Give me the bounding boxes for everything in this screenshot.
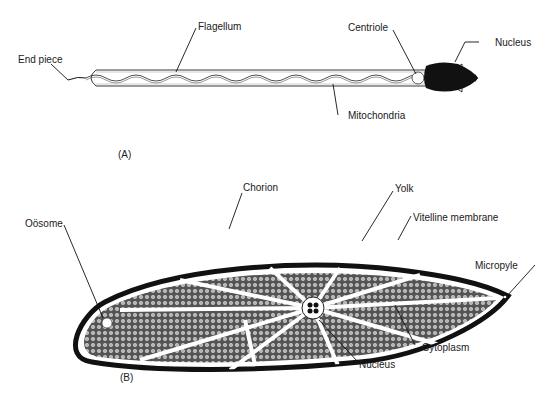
sperm-nucleus-shape xyxy=(424,62,478,91)
label-end-piece: End piece xyxy=(18,54,62,65)
label-cytoplasm: Cytoplasm xyxy=(422,342,469,353)
label-centriole: Centriole xyxy=(348,22,388,33)
label-vitelline-membrane: Vitelline membrane xyxy=(413,212,498,223)
label-mitochondria: Mitochondria xyxy=(348,110,405,121)
panel-a-leaders xyxy=(51,28,479,115)
centriole-shape xyxy=(412,72,424,84)
label-chorion: Chorion xyxy=(243,182,278,193)
label-micropyle: Micropyle xyxy=(475,260,518,271)
panel-a-label: (A) xyxy=(118,149,131,160)
egg-nucleus-shape xyxy=(302,297,324,319)
oosome-shape xyxy=(102,318,112,328)
label-yolk: Yolk xyxy=(395,183,414,194)
egg-diagram xyxy=(75,265,508,370)
label-sperm-nucleus: Nucleus xyxy=(495,37,531,48)
diagram-canvas xyxy=(0,0,550,400)
sperm-diagram xyxy=(68,62,478,92)
panel-b-label: (B) xyxy=(120,372,133,383)
label-egg-nucleus: Nucleus xyxy=(359,359,395,370)
label-flagellum: Flagellum xyxy=(198,21,241,32)
label-oosome: Oösome xyxy=(25,218,63,229)
